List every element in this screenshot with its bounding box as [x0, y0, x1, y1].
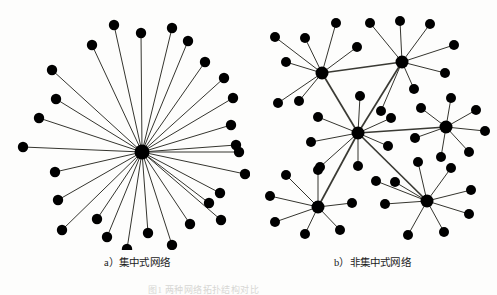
network-edge — [376, 181, 427, 201]
network-edge — [142, 152, 148, 233]
network-hub-node — [440, 121, 453, 134]
network-node — [216, 215, 226, 225]
network-edge — [142, 152, 245, 174]
network-node — [446, 93, 456, 103]
figure-container: a）集中式网络 b）非集中式网络 图1 两种网络拓扑结构对比 — [0, 0, 497, 295]
network-node — [335, 225, 345, 235]
network-node — [446, 163, 456, 173]
network-node — [425, 19, 435, 29]
network-node — [204, 198, 214, 208]
hub-to-hub-edge — [358, 133, 427, 201]
centralized-edges — [23, 25, 245, 249]
decentralized-hub-nodes — [312, 56, 453, 214]
network-hub-node — [396, 56, 409, 69]
network-node — [87, 40, 97, 50]
network-edge — [52, 70, 142, 152]
network-node — [167, 23, 177, 33]
network-edge — [92, 45, 142, 152]
network-node — [51, 94, 61, 104]
network-edge — [311, 133, 358, 142]
network-node — [313, 112, 323, 122]
network-node — [234, 147, 244, 157]
network-node — [50, 167, 60, 177]
network-edge — [402, 45, 454, 62]
network-node — [183, 36, 193, 46]
network-node — [281, 57, 291, 67]
network-edge — [107, 152, 142, 237]
network-edge — [142, 152, 190, 224]
network-node — [18, 142, 28, 152]
network-edge — [275, 37, 322, 73]
network-node — [34, 113, 44, 123]
network-node — [464, 209, 474, 219]
network-node — [331, 18, 341, 28]
network-edge — [142, 152, 221, 220]
network-node — [143, 228, 153, 238]
network-node — [386, 113, 396, 123]
decentralized-network-diagram — [248, 0, 497, 250]
network-node — [436, 152, 446, 162]
network-hub-node — [312, 201, 325, 214]
centralized-hub-node — [135, 145, 150, 160]
network-node — [403, 230, 413, 240]
network-node — [471, 105, 481, 115]
network-node — [167, 240, 177, 250]
network-node — [352, 42, 362, 52]
network-node — [294, 96, 304, 106]
network-edge — [142, 145, 236, 152]
network-node — [185, 219, 195, 229]
network-node — [270, 217, 280, 227]
network-edge — [381, 62, 402, 111]
network-edge — [142, 98, 233, 152]
decentralized-leaf-edges — [270, 21, 485, 235]
network-edge — [127, 152, 142, 249]
network-node — [136, 28, 146, 38]
network-edge — [23, 147, 142, 152]
network-edge — [142, 78, 224, 152]
network-node — [228, 93, 238, 103]
network-node — [122, 244, 132, 250]
network-edge — [55, 152, 142, 172]
network-node — [92, 214, 102, 224]
network-node — [109, 20, 119, 30]
network-node — [47, 65, 57, 75]
network-node — [347, 198, 357, 208]
network-node — [281, 170, 291, 180]
network-node — [449, 40, 459, 50]
caption-panel-b: b）非集中式网络 — [334, 257, 411, 270]
network-node — [265, 191, 275, 201]
network-edge — [402, 62, 445, 73]
network-node — [410, 133, 420, 143]
network-node — [390, 177, 400, 187]
network-edge — [322, 23, 336, 73]
network-hub-node — [316, 67, 329, 80]
network-edge — [142, 125, 231, 152]
hub-to-hub-edge — [322, 73, 358, 133]
network-node — [395, 16, 405, 26]
network-hub-node — [421, 195, 434, 208]
network-node — [226, 120, 236, 130]
network-node — [439, 227, 449, 237]
network-node — [466, 185, 476, 195]
figure-title: 图1 两种网络拓扑结构对比 — [148, 283, 259, 295]
network-edge — [402, 24, 430, 62]
network-edge — [320, 133, 358, 167]
network-node — [273, 98, 283, 108]
network-node — [380, 199, 390, 209]
network-edge — [39, 118, 142, 152]
network-node — [353, 161, 363, 171]
network-edge — [97, 152, 142, 219]
caption-panel-a: a）集中式网络 — [104, 257, 170, 270]
network-hub-node — [135, 145, 150, 160]
network-node — [416, 103, 426, 113]
network-node — [57, 225, 67, 235]
network-node — [371, 176, 381, 186]
network-node — [355, 91, 365, 101]
network-node — [102, 232, 112, 242]
network-node — [413, 157, 423, 167]
network-node — [440, 68, 450, 78]
decentralized-hub-links — [318, 62, 446, 207]
network-node — [300, 229, 310, 239]
network-node — [409, 84, 419, 94]
network-edge — [141, 33, 142, 152]
